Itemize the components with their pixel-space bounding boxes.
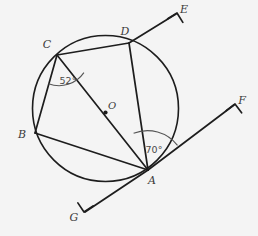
ray-A-G: [85, 170, 148, 212]
ray-A-F: [148, 105, 234, 170]
geometry-figure: A B C D E F G O 52° 70°: [0, 0, 258, 236]
circle-outline: [33, 36, 179, 182]
center-point-O: [103, 110, 107, 114]
vertex-label-G: G: [70, 211, 79, 224]
vertex-label-C: C: [43, 38, 52, 51]
chord-C-D: [57, 43, 129, 55]
geometry-canvas: A B C D E F G O 52° 70°: [0, 0, 258, 236]
diameter-C-A: [57, 55, 148, 170]
angle-measure-C: 52°: [60, 75, 77, 86]
vertex-label-B: B: [17, 128, 26, 141]
vertex-label-F: F: [237, 94, 246, 107]
center-label-O: O: [108, 100, 116, 111]
vertex-label-E: E: [179, 3, 188, 16]
vertex-label-D: D: [120, 25, 130, 38]
chord-B-A: [35, 133, 148, 170]
angle-measure-A: 70°: [146, 144, 163, 155]
arrowhead-G-icon: [78, 197, 93, 212]
vertex-label-A: A: [147, 174, 156, 187]
